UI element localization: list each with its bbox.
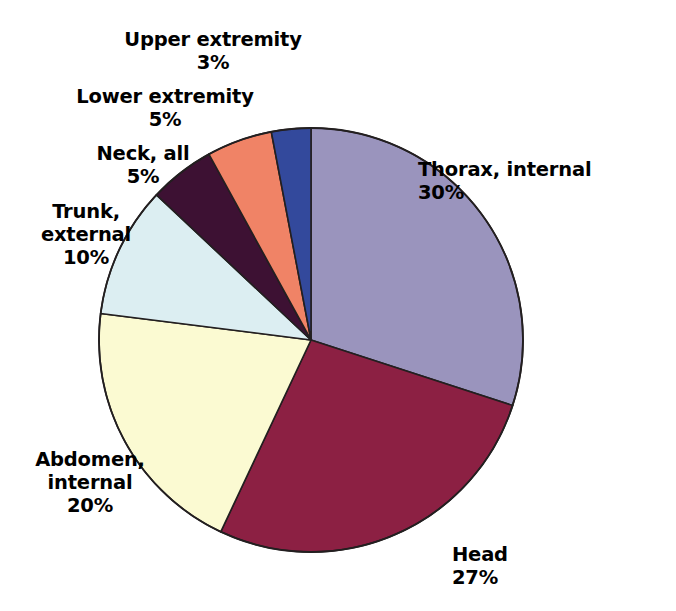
pie-label-thorax-internal: Thorax, internal 30% <box>418 158 670 204</box>
pie-label-upper-extremity: Upper extremity 3% <box>104 28 322 74</box>
pie-label-head: Head 27% <box>452 543 564 589</box>
pie-chart-figure: Upper extremity 3% Lower extremity 5% Ne… <box>0 0 676 611</box>
pie-label-lower-extremity: Lower extremity 5% <box>56 85 274 131</box>
pie-label-trunk-external: Trunk, external 10% <box>10 200 162 269</box>
pie-label-neck-all: Neck, all 5% <box>52 142 234 188</box>
pie-label-abdomen-internal: Abdomen, internal 20% <box>8 448 172 517</box>
